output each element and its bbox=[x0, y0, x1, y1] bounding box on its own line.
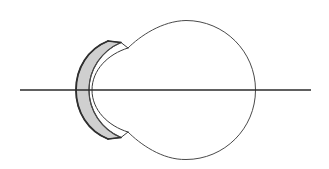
eye-cross-section-figure: Schematic horizontal cross-section of th… bbox=[0, 0, 329, 169]
limbus-upper-notch bbox=[121, 43, 128, 49]
limbus-lower-notch bbox=[121, 132, 128, 138]
eye-diagram-canvas bbox=[0, 0, 329, 169]
